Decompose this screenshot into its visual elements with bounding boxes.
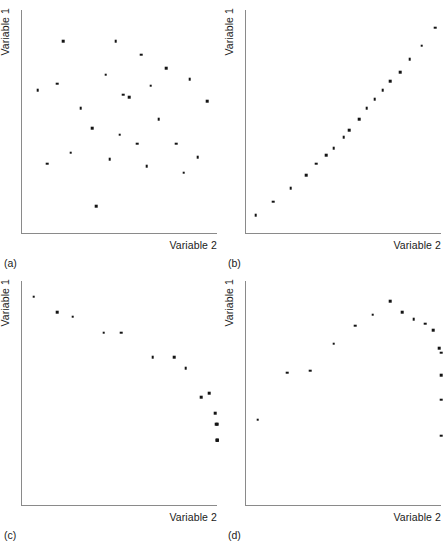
data-point [149,85,152,88]
data-point [309,369,312,372]
x-axis-label-a: Variable 2 [169,239,217,251]
data-point [216,439,219,442]
data-point [185,367,188,370]
panel-d: Variable 1 Variable 2 (d) [224,271,448,543]
data-point [56,82,59,85]
scatter-points-a [22,10,217,233]
data-point [79,107,82,110]
data-point [358,118,361,121]
data-point [140,53,143,56]
data-point [424,322,427,325]
plot-area-c [21,281,217,506]
y-axis-label-c: Variable 1 [0,279,11,327]
panel-a: Variable 1 Variable 2 (a) [0,0,224,271]
data-point [434,27,437,30]
data-point [420,44,423,47]
data-point [440,374,443,377]
data-point [188,78,191,81]
data-point [151,356,154,359]
data-point [36,89,39,92]
data-point [69,151,72,154]
plot-area-d [245,281,441,506]
data-point [354,325,357,328]
data-point [432,329,435,332]
panel-caption-b: (b) [228,257,241,269]
data-point [399,71,402,74]
data-point [120,331,123,334]
data-point [95,205,98,208]
panel-caption-d: (d) [228,529,241,541]
panel-c: Variable 1 Variable 2 (c) [0,271,224,543]
y-axis-label-b: Variable 1 [223,8,235,56]
data-point [366,107,369,110]
y-axis-label-d: Variable 1 [223,279,235,327]
x-axis-label-d: Variable 2 [393,511,441,523]
x-axis-label-b: Variable 2 [393,239,441,251]
data-point [56,311,59,314]
scatter-points-b [246,10,441,233]
data-point [440,351,443,354]
x-axis-label-c: Variable 2 [169,511,217,523]
data-point [216,423,219,426]
data-point [371,313,374,316]
data-point [206,100,209,103]
data-point [409,58,412,61]
data-point [389,80,392,83]
plot-area-b [245,10,441,234]
data-point [46,163,49,166]
data-point [256,419,259,422]
data-point [91,127,94,130]
data-point [389,300,392,303]
data-point [373,98,376,101]
data-point [175,143,178,146]
panel-caption-c: (c) [4,529,16,541]
data-point [305,174,308,177]
data-point [146,165,149,168]
data-point [272,200,275,203]
data-point [136,143,139,146]
data-point [200,396,203,399]
data-point [157,118,160,121]
data-point [438,347,441,350]
scatter-points-c [22,281,217,505]
data-point [254,214,257,217]
data-point [183,171,186,174]
data-point [348,129,351,132]
data-point [332,342,335,345]
data-point [325,154,328,157]
data-point [165,67,168,70]
data-point [332,147,335,150]
scatterplot-figure: Variable 1 Variable 2 (a) Variable 1 Var… [0,0,448,543]
panel-b: Variable 1 Variable 2 (b) [224,0,448,271]
data-point [286,372,289,375]
data-point [214,412,217,415]
data-point [342,136,345,139]
panel-caption-a: (a) [4,257,17,269]
data-point [108,158,111,161]
data-point [401,311,404,314]
data-point [118,134,121,137]
data-point [440,398,443,401]
data-point [440,434,443,437]
y-axis-label-a: Variable 1 [0,8,11,56]
data-point [290,187,293,190]
data-point [62,40,65,43]
data-point [196,156,199,159]
data-point [71,316,74,319]
data-point [412,318,415,321]
data-point [381,89,384,92]
data-point [208,392,211,395]
data-point [32,295,35,298]
data-point [315,163,318,166]
scatter-points-d [246,281,441,505]
data-point [173,356,176,359]
data-point [103,331,106,334]
data-point [114,40,117,43]
data-point [105,73,108,76]
plot-area-a [21,10,217,234]
data-point [128,96,131,99]
data-point [122,93,125,96]
